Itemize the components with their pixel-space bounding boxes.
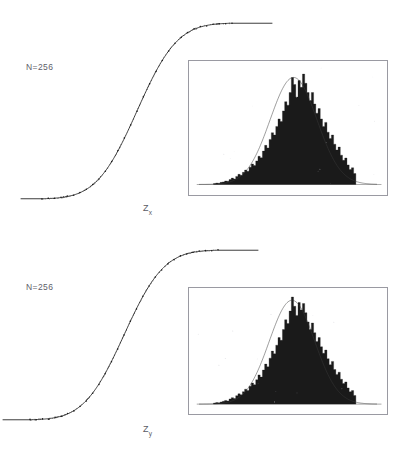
cdf-data-point xyxy=(86,189,88,191)
cdf-data-point xyxy=(130,320,131,321)
cdf-data-point xyxy=(142,295,144,297)
cdf-data-point xyxy=(196,29,197,30)
cdf-data-point xyxy=(73,194,75,196)
scan-speckle xyxy=(341,388,342,389)
scan-speckle xyxy=(326,142,327,143)
cdf-data-point xyxy=(53,198,54,199)
cdf-data-point xyxy=(137,108,138,109)
cdf-data-point xyxy=(41,198,43,200)
sample-size-label-zy: N=256 xyxy=(26,282,53,292)
cdf-data-point xyxy=(180,256,181,257)
cdf-data-point xyxy=(72,195,73,196)
cdf-data-point xyxy=(104,376,105,377)
scan-speckle xyxy=(223,154,224,155)
cdf-data-point xyxy=(102,175,103,176)
cdf-data-point xyxy=(186,33,187,34)
cdf-data-point xyxy=(153,76,154,77)
cdf-data-point xyxy=(195,28,196,29)
cdf-data-point xyxy=(231,23,233,25)
cdf-data-point xyxy=(211,250,213,252)
cdf-data-point xyxy=(49,199,50,200)
cdf-data-point xyxy=(190,31,191,32)
cdf-data-point xyxy=(189,32,190,33)
cdf-data-point xyxy=(170,48,171,49)
cdf-data-point xyxy=(105,372,106,373)
scan-speckle xyxy=(274,401,275,402)
cdf-data-point xyxy=(229,22,230,23)
cdf-data-point xyxy=(32,419,33,420)
cdf-data-point xyxy=(68,196,69,197)
cdf-data-point xyxy=(39,419,40,420)
cdf-data-point xyxy=(113,358,114,359)
cdf-data-point xyxy=(50,198,51,199)
cdf-data-point xyxy=(168,51,169,52)
cdf-data-point xyxy=(112,160,113,161)
cdf-data-point xyxy=(117,151,118,152)
cdf-data-point xyxy=(188,253,189,254)
cdf-data-point xyxy=(99,383,100,384)
cdf-data-point xyxy=(164,266,165,267)
cdf-data-point xyxy=(225,23,227,25)
cdf-data-point xyxy=(115,155,116,156)
cdf-data-point xyxy=(129,127,130,128)
panel-zx: N=256 Zx xyxy=(0,0,407,225)
scan-speckle xyxy=(373,77,374,78)
cdf-data-point xyxy=(171,47,172,48)
scan-speckle xyxy=(313,315,314,316)
cdf-data-point xyxy=(110,363,111,364)
cdf-data-point xyxy=(61,198,62,199)
cdf-data-point xyxy=(34,419,35,420)
cdf-data-point xyxy=(120,147,121,148)
cdf-data-point xyxy=(52,418,53,419)
cdf-data-point xyxy=(209,251,210,252)
cdf-data-point xyxy=(206,25,208,27)
cdf-data-point xyxy=(180,38,181,39)
cdf-data-point xyxy=(133,315,134,316)
cdf-data-point xyxy=(180,38,181,39)
cdf-data-point xyxy=(207,250,208,251)
cdf-data-point xyxy=(192,252,193,253)
cdf-data-point xyxy=(124,137,125,138)
x-axis-label-zx-subscript: x xyxy=(149,209,152,216)
cdf-data-point xyxy=(84,190,85,191)
cdf-data-point xyxy=(213,250,214,251)
cdf-data-point xyxy=(43,199,44,200)
scan-speckle xyxy=(374,174,375,175)
cdf-data-point xyxy=(104,373,106,375)
scan-speckle xyxy=(374,121,375,122)
cdf-data-point xyxy=(66,414,67,415)
cdf-data-point xyxy=(216,250,217,251)
cdf-data-point xyxy=(160,63,161,64)
cdf-data-point xyxy=(229,23,230,24)
cdf-data-point xyxy=(42,419,43,420)
cdf-data-point xyxy=(113,357,114,358)
cdf-data-point xyxy=(70,196,71,197)
cdf-data-point xyxy=(109,164,110,165)
cdf-data-point xyxy=(189,253,190,254)
cdf-data-point xyxy=(202,26,203,27)
scan-speckle xyxy=(296,97,297,98)
cdf-data-point xyxy=(186,33,187,34)
x-axis-label-zx: Zx xyxy=(143,203,152,215)
x-axis-label-zx-base: Z xyxy=(143,203,149,213)
cdf-data-point xyxy=(89,397,90,398)
cdf-data-point xyxy=(122,337,123,338)
cdf-data-point xyxy=(111,163,112,164)
cdf-data-point xyxy=(195,29,196,30)
cdf-data-point xyxy=(151,80,152,81)
cdf-data-point xyxy=(91,394,92,395)
cdf-data-point xyxy=(155,276,157,278)
cdf-data-point xyxy=(169,50,170,51)
cdf-data-point xyxy=(69,196,70,197)
panel-zy-plot xyxy=(0,225,407,449)
cdf-data-point xyxy=(56,417,57,418)
cdf-data-point xyxy=(98,178,100,180)
cdf-data-point xyxy=(67,413,68,414)
cdf-data-point xyxy=(78,193,79,194)
cdf-data-point xyxy=(179,39,180,40)
cdf-data-point xyxy=(62,416,63,417)
scan-speckle xyxy=(330,183,331,184)
cdf-data-point xyxy=(179,256,180,257)
cdf-data-point xyxy=(100,381,101,382)
cdf-data-point xyxy=(200,251,201,252)
